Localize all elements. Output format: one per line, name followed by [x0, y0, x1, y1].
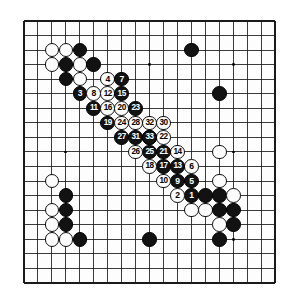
- move-stone-10-white[interactable]: 10: [156, 174, 171, 189]
- white-stone-c14-r9[interactable]: [212, 145, 227, 160]
- move-stone-17-black[interactable]: 17: [156, 159, 171, 174]
- move-stone-14-white[interactable]: 14: [170, 145, 185, 160]
- move-number: 11: [90, 104, 98, 112]
- star-point-c15-r3: [232, 63, 235, 66]
- move-number: 18: [145, 162, 153, 170]
- black-stone-c13-r12[interactable]: [198, 188, 213, 203]
- black-stone-c9-r15[interactable]: [142, 232, 157, 247]
- white-stone-c2-r3[interactable]: [45, 57, 60, 72]
- move-number: 8: [92, 89, 96, 98]
- move-stone-20-white[interactable]: 20: [114, 101, 129, 116]
- black-stone-c14-r15[interactable]: [212, 232, 227, 247]
- black-stone-c14-r12[interactable]: [212, 188, 227, 203]
- move-number: 25: [145, 148, 153, 156]
- black-stone-c14-r13[interactable]: [212, 203, 227, 218]
- move-number: 5: [189, 177, 193, 186]
- move-stone-18-white[interactable]: 18: [142, 159, 157, 174]
- black-stone-c5-r3[interactable]: [86, 57, 101, 72]
- move-stone-28-white[interactable]: 28: [128, 116, 143, 131]
- move-number: 16: [104, 104, 112, 112]
- move-stone-15-black[interactable]: 15: [114, 86, 129, 101]
- move-number: 13: [173, 162, 181, 170]
- move-stone-19-black[interactable]: 19: [100, 116, 115, 131]
- move-stone-16-white[interactable]: 16: [100, 101, 115, 116]
- move-stone-12-white[interactable]: 12: [100, 86, 115, 101]
- move-number: 30: [159, 119, 167, 127]
- move-number: 31: [132, 133, 140, 141]
- move-number: 14: [173, 148, 181, 156]
- move-number: 6: [189, 162, 193, 171]
- move-stone-22-white[interactable]: 22: [156, 130, 171, 145]
- move-stone-27-black[interactable]: 27: [114, 130, 129, 145]
- black-stone-c15-r13[interactable]: [226, 203, 241, 218]
- go-diagram-page: 1234567891011121314151617181920212223242…: [0, 0, 296, 305]
- move-stone-23-black[interactable]: 23: [128, 101, 143, 116]
- move-number: 32: [145, 119, 153, 127]
- black-stone-c14-r5[interactable]: [212, 86, 227, 101]
- move-stone-13-black[interactable]: 13: [170, 159, 185, 174]
- white-stone-c2-r15[interactable]: [45, 232, 60, 247]
- move-number: 12: [104, 90, 112, 98]
- move-stone-6-white[interactable]: 6: [184, 159, 199, 174]
- move-number: 24: [118, 119, 126, 127]
- move-number: 21: [159, 148, 167, 156]
- move-number: 1: [189, 191, 193, 200]
- move-stone-3-black[interactable]: 3: [73, 86, 88, 101]
- move-number: 28: [132, 119, 140, 127]
- move-number: 19: [104, 119, 112, 127]
- move-number: 22: [159, 133, 167, 141]
- move-stone-2-white[interactable]: 2: [170, 188, 185, 203]
- move-stone-31-black[interactable]: 31: [128, 130, 143, 145]
- move-stone-8-white[interactable]: 8: [86, 86, 101, 101]
- star-point-c15-r15: [232, 238, 235, 241]
- move-stone-21-black[interactable]: 21: [156, 145, 171, 160]
- move-number: 23: [132, 104, 140, 112]
- move-number: 26: [132, 148, 140, 156]
- move-number: 33: [145, 133, 153, 141]
- move-stone-1-black[interactable]: 1: [184, 188, 199, 203]
- black-stone-c3-r14[interactable]: [59, 217, 74, 232]
- white-stone-c3-r15[interactable]: [59, 232, 74, 247]
- move-number: 27: [118, 133, 126, 141]
- white-stone-c12-r13[interactable]: [184, 203, 199, 218]
- move-number: 9: [175, 177, 179, 186]
- move-stone-26-white[interactable]: 26: [128, 145, 143, 160]
- star-point-c15-r9: [232, 151, 235, 154]
- go-board[interactable]: 1234567891011121314151617181920212223242…: [24, 21, 275, 283]
- move-number: 3: [78, 89, 82, 98]
- move-stone-24-white[interactable]: 24: [114, 116, 129, 131]
- move-number: 17: [159, 162, 167, 170]
- move-number: 4: [106, 75, 110, 84]
- move-number: 7: [120, 75, 124, 84]
- move-stone-11-black[interactable]: 11: [86, 101, 101, 116]
- move-number: 2: [175, 191, 179, 200]
- white-stone-c13-r13[interactable]: [198, 203, 213, 218]
- black-stone-c3-r12[interactable]: [59, 188, 74, 203]
- black-stone-c4-r15[interactable]: [73, 232, 88, 247]
- white-stone-c4-r3[interactable]: [73, 57, 88, 72]
- move-stone-33-black[interactable]: 33: [142, 130, 157, 145]
- move-stone-32-white[interactable]: 32: [142, 116, 157, 131]
- black-stone-c12-r2[interactable]: [184, 43, 199, 58]
- white-stone-c14-r14[interactable]: [212, 217, 227, 232]
- white-stone-c15-r12[interactable]: [226, 188, 241, 203]
- white-stone-c2-r14[interactable]: [45, 217, 60, 232]
- move-stone-30-white[interactable]: 30: [156, 116, 171, 131]
- move-number: 15: [118, 90, 126, 98]
- star-point-c9-r3: [148, 63, 151, 66]
- move-number: 10: [159, 177, 167, 185]
- black-stone-c15-r14[interactable]: [226, 217, 241, 232]
- white-stone-c14-r11[interactable]: [212, 174, 227, 189]
- move-number: 20: [118, 104, 126, 112]
- black-stone-c3-r3[interactable]: [59, 57, 74, 72]
- move-stone-9-black[interactable]: 9: [170, 174, 185, 189]
- move-stone-25-black[interactable]: 25: [142, 145, 157, 160]
- move-stone-5-black[interactable]: 5: [184, 174, 199, 189]
